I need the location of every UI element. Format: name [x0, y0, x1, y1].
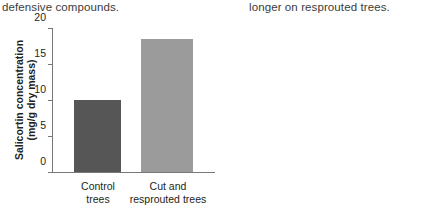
y-tick-5 — [48, 136, 52, 137]
y-tick-label-10: 10 — [34, 83, 46, 95]
plot-area-salicortin: 0 5 10 15 20 — [52, 28, 215, 173]
chart-panel-larval-survival: Larval survival time (sec) 0 100 200 300… — [224, 0, 448, 216]
y-tick-label-15: 15 — [34, 47, 46, 59]
y-tick-20 — [48, 28, 52, 29]
y-tick-0 — [48, 172, 52, 173]
bar-cut-and-resprouted-trees — [141, 39, 193, 172]
bar-control-trees — [74, 100, 121, 172]
y-tick-15 — [48, 64, 52, 65]
y-axis-label-line1: Salicortin concentration — [14, 25, 26, 175]
y-tick-label-0: 0 — [40, 155, 46, 167]
y-axis-line — [52, 28, 53, 173]
chart-panel-salicortin: Salicortin concentration (mg/g dry mass)… — [0, 0, 224, 216]
x-category-line-2: resprouted trees — [124, 193, 212, 206]
y-tick-label-5: 5 — [40, 119, 46, 131]
x-category-label-cut-and-resprouted-trees: Cut and resprouted trees — [124, 180, 212, 205]
x-category-line-1: Cut and — [124, 180, 212, 193]
y-tick-label-20: 20 — [34, 11, 46, 23]
x-axis-line — [52, 172, 215, 173]
y-tick-10 — [48, 100, 52, 101]
